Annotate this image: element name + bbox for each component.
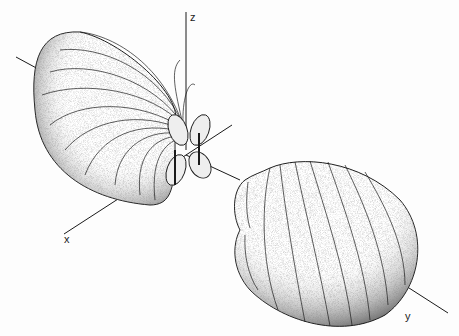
radiation-pattern-drawing <box>0 0 459 336</box>
diagram-canvas: z x y <box>0 0 459 336</box>
y-axis-label: y <box>405 311 411 322</box>
lower-right-lobe <box>235 161 418 326</box>
x-axis-label: x <box>64 234 70 245</box>
z-axis-label: z <box>190 12 196 23</box>
